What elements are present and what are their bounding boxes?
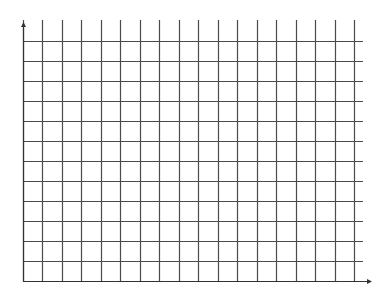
- horizontal-grid-lines: [23, 42, 363, 282]
- y-axis-arrow-icon: [21, 22, 26, 27]
- coordinate-grid: [0, 0, 392, 298]
- x-axis-arrow-icon: [367, 279, 372, 284]
